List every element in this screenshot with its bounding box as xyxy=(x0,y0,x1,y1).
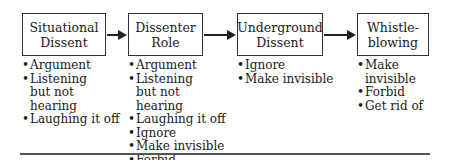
arrow-icon xyxy=(324,34,354,36)
bottom-divider xyxy=(20,153,430,155)
stage-responses-list: Make invisible Forbid Get rid of xyxy=(357,59,451,113)
stage-box-dissenter-role: Dissenter Role xyxy=(128,13,203,56)
stage-responses-list: Argument Listening but not hearing Laugh… xyxy=(128,59,228,160)
stage-box-whistle-blowing: Whistle- blowing xyxy=(357,13,429,56)
stage-title-line: Situational xyxy=(29,20,98,35)
list-item: Listening but not hearing xyxy=(128,73,214,114)
list-item: Ignore xyxy=(128,127,228,141)
list-item: Laughing it off xyxy=(22,113,122,127)
stage-title-line: Whistle- xyxy=(367,20,419,35)
list-item: Listening but not hearing xyxy=(22,73,108,114)
list-item: Make invisible xyxy=(128,140,228,154)
stage-responses-list: Argument Listening but not hearing Laugh… xyxy=(22,59,122,127)
arrow-icon xyxy=(107,34,125,36)
list-item: Laughing it off xyxy=(128,113,228,127)
stage-title-line: Dissenter xyxy=(135,20,196,35)
list-item: Forbid xyxy=(357,86,451,100)
arrow-icon xyxy=(204,34,234,36)
list-item: Ignore xyxy=(237,59,347,73)
stage-title-line: Role xyxy=(135,35,196,50)
stage-box-underground-dissent: Underground Dissent xyxy=(237,13,323,56)
list-item: Argument xyxy=(128,59,228,73)
stage-title-line: Underground xyxy=(237,20,323,35)
stage-responses-list: Ignore Make invisible xyxy=(237,59,347,86)
list-item: Argument xyxy=(22,59,122,73)
list-item: Make invisible xyxy=(357,59,451,86)
list-item: Make invisible xyxy=(237,73,347,87)
stage-title-line: Dissent xyxy=(29,35,98,50)
stage-title-line: blowing xyxy=(367,35,419,50)
stage-title-line: Dissent xyxy=(237,35,323,50)
list-item: Get rid of xyxy=(357,100,451,114)
stage-box-situational-dissent: Situational Dissent xyxy=(22,13,106,56)
